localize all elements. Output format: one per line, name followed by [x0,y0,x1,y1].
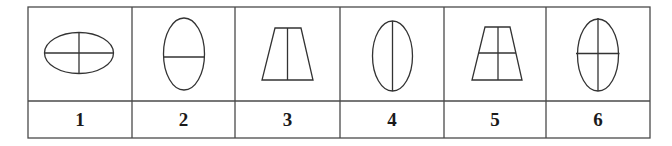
figure-5-trapezoid-cross [472,27,522,80]
figure-label-5: 5 [444,103,546,137]
figure-label-3: 3 [235,103,340,137]
figure-table: 1 2 3 4 5 6 [0,0,672,146]
figure-label-4: 4 [340,103,444,137]
figure-6-vertical-ellipse-cross [576,18,620,91]
figure-label-1: 1 [28,103,132,137]
figure-4-vertical-ellipse-vertical-line [373,21,413,91]
figure-2-vertical-ellipse-horizontal-line [164,18,206,90]
figure-1-horizontal-ellipse-cross [45,32,114,74]
figure-label-6: 6 [546,103,650,137]
figure-3-trapezoid-vertical-line [262,28,313,80]
figure-label-2: 2 [132,103,235,137]
